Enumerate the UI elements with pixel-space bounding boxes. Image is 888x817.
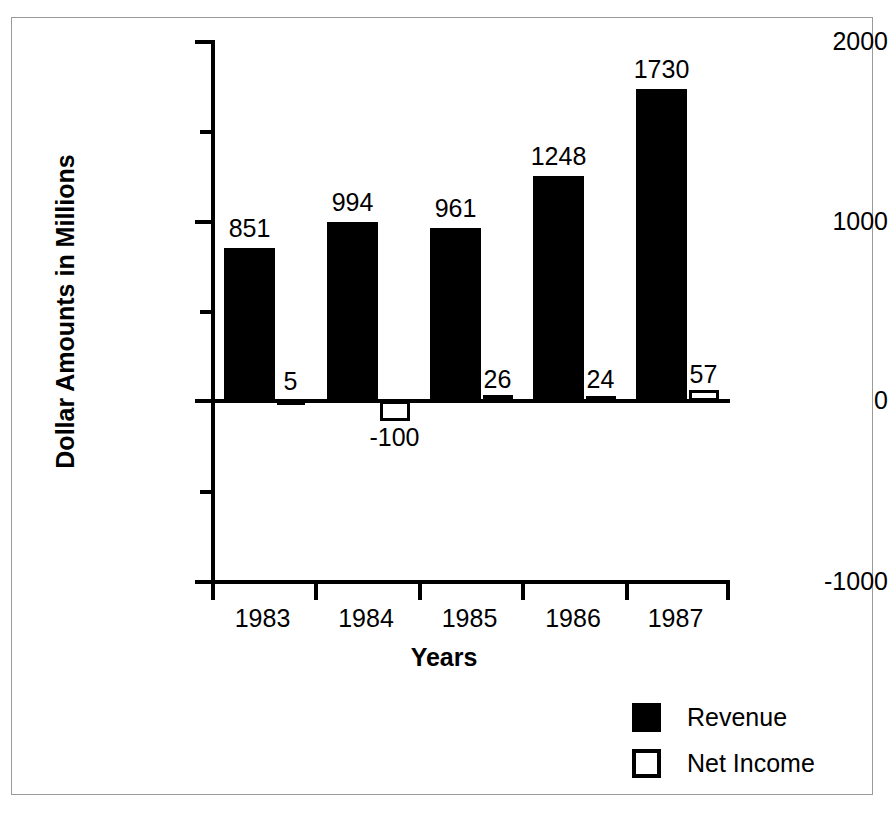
bar-netincome-1985 [483,395,513,401]
bar-chart-plot: 2000 1000 0 -1000 Dollar Amounts in Mill… [0,0,888,817]
y-tick-label-1000: 1000 [698,209,888,234]
y-tick-m500-minor [200,490,211,494]
x-tick-label-1983: 1983 [211,604,314,633]
y-tick-500-minor [200,310,211,314]
bar-netincome-1986 [586,396,616,402]
bar-netincome-1983 [277,399,305,405]
legend-label-revenue: Revenue [687,703,787,732]
x-tick-0 [211,582,215,600]
y-axis-title: Dollar Amounts in Millions [51,112,80,512]
chart-screenshot: 2000 1000 0 -1000 Dollar Amounts in Mill… [0,0,888,817]
bar-label-netincome-1984: -100 [345,425,444,450]
x-axis-line [211,580,730,584]
bar-label-revenue-1983: 851 [200,216,299,241]
legend-label-net-income: Net Income [687,749,815,778]
legend-swatch-net-income-icon [632,749,661,778]
bar-label-revenue-1984: 994 [303,190,402,215]
y-tick-0 [195,399,211,403]
bar-revenue-1984 [327,222,378,401]
x-tick-4 [625,582,629,600]
chart-legend: Revenue Net Income [632,694,815,786]
x-tick-label-1987: 1987 [625,604,726,633]
bar-revenue-1987 [636,89,687,401]
y-tick-2000 [195,40,211,44]
legend-item-revenue: Revenue [632,694,815,740]
x-tick-label-1984: 1984 [314,604,418,633]
bar-label-revenue-1987: 1730 [612,57,711,82]
x-tick-3 [521,582,525,600]
bar-label-netincome-1983: 5 [241,369,340,394]
y-axis-line [211,40,215,584]
y-tick-label-2000: 2000 [698,29,888,54]
x-axis-title: Years [0,643,888,672]
x-tick-label-1985: 1985 [418,604,521,633]
legend-item-net-income: Net Income [632,740,815,786]
bar-label-netincome-1987: 57 [654,362,753,387]
x-tick-2 [418,582,422,600]
bar-netincome-1987 [689,390,719,401]
legend-swatch-revenue-icon [632,703,661,732]
x-tick-label-1986: 1986 [521,604,625,633]
x-tick-1 [314,582,318,600]
bar-label-revenue-1986: 1248 [509,144,608,169]
y-tick-m1000 [195,580,211,584]
bar-label-revenue-1985: 961 [406,196,505,221]
x-tick-5 [726,582,730,600]
y-tick-label-0: 0 [698,388,888,413]
bar-netincome-1984 [380,401,410,421]
y-tick-1500-minor [200,130,211,134]
